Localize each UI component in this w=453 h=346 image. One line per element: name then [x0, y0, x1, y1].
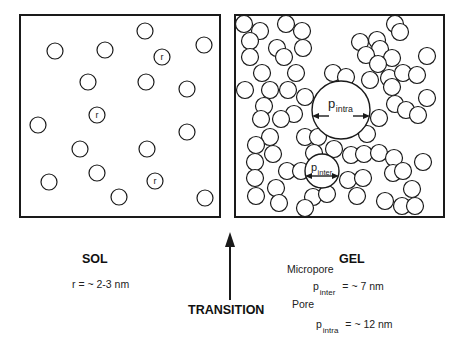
- gel-particle: [236, 16, 253, 33]
- gel-particle: [356, 146, 373, 163]
- gel-particle: [340, 172, 357, 189]
- micropore-size: pinter = ~ 7 nm: [313, 280, 384, 292]
- sol-particle: [196, 37, 212, 53]
- sol-particle: [41, 174, 57, 190]
- gel-particle: [262, 82, 279, 99]
- gel-particle: [297, 89, 314, 106]
- sol-particle: [179, 81, 195, 97]
- gel-particle: [265, 146, 282, 163]
- pore-inter-subscript: inter: [318, 168, 333, 177]
- pore-subscript: intra: [323, 326, 339, 335]
- transition-label: TRANSITION: [188, 303, 264, 317]
- transition-arrow-icon: [225, 232, 235, 300]
- radius-label: r: [154, 176, 157, 186]
- sol-particle: [89, 165, 105, 181]
- sol-label: SOL: [82, 252, 108, 266]
- sol-particle: [137, 23, 153, 39]
- micropore-symbol: p: [313, 280, 319, 292]
- sol-particle: [72, 141, 88, 157]
- sol-particle: [80, 74, 96, 90]
- gel-particle: [295, 40, 312, 57]
- radius-label: r: [161, 52, 164, 62]
- micropore-value: = ~ 7 nm: [342, 280, 383, 292]
- pore-size: pintra = ~ 12 nm: [316, 318, 393, 330]
- gel-particle: [288, 65, 305, 82]
- radius-label: r: [96, 110, 99, 120]
- pore-inter: pinter: [305, 154, 339, 188]
- pore-intra-symbol: p: [328, 96, 335, 111]
- gel-particle: [371, 110, 388, 127]
- sol-panel: rrr: [20, 15, 220, 217]
- gel-particle: [419, 90, 436, 107]
- pore-inter-symbol: p: [311, 161, 317, 173]
- gel-particle: [395, 163, 412, 180]
- gel-particle: [237, 82, 254, 99]
- pore-value: = ~ 12 nm: [345, 318, 392, 330]
- sol-particle: [47, 43, 63, 59]
- gel-particle: [355, 170, 372, 187]
- gel-particle: [247, 170, 264, 187]
- sol-particle: [97, 42, 113, 58]
- sol-particle: [197, 190, 213, 206]
- gel-particle: [349, 188, 366, 205]
- pore-intra-subscript: intra: [336, 104, 353, 114]
- pore-symbol: p: [316, 318, 322, 330]
- gel-particle: [248, 137, 265, 154]
- gel-particle: [297, 200, 314, 217]
- gel-particle: [276, 49, 293, 66]
- gel-particle: [419, 48, 436, 65]
- pore-intra: pintra: [312, 81, 370, 139]
- micropore-subscript: inter: [320, 288, 336, 297]
- gel-particle: [415, 154, 432, 171]
- gel-particle: [247, 154, 264, 171]
- gel-label: GEL: [339, 252, 365, 266]
- gel-particle: [410, 107, 427, 124]
- sol-particle: [111, 189, 127, 205]
- gel-particle: [370, 56, 387, 73]
- sol-particle: [138, 74, 154, 90]
- diagram-canvas: rrr pintrapinter: [0, 0, 453, 346]
- gel-particle: [280, 82, 297, 99]
- gel-particle: [242, 49, 259, 66]
- gel-particle: [242, 33, 259, 50]
- sol-particle: [139, 141, 155, 157]
- gel-particle: [384, 79, 401, 96]
- gel-particle: [294, 23, 311, 40]
- gel-particle: [254, 65, 271, 82]
- gel-particle: [404, 181, 421, 198]
- gel-particle: [409, 67, 426, 84]
- sol-particle: [179, 124, 195, 140]
- micropore-label: Micropore: [287, 263, 334, 275]
- gel-particle: [248, 188, 265, 205]
- gel-particle: [278, 16, 295, 33]
- gel-panel: pintrapinter: [235, 15, 444, 217]
- gel-particle: [271, 195, 288, 212]
- gel-particle: [377, 193, 394, 210]
- gel-particle: [268, 180, 285, 197]
- pore-label: Pore: [292, 298, 314, 310]
- gel-particle: [273, 111, 290, 128]
- gel-particle: [407, 198, 424, 215]
- gel-particle: [392, 24, 409, 41]
- sol-particle: [30, 117, 46, 133]
- gel-particle: [253, 111, 270, 128]
- gel-particle: [362, 72, 379, 89]
- sol-radius-annotation: r = ~ 2-3 nm: [72, 278, 129, 290]
